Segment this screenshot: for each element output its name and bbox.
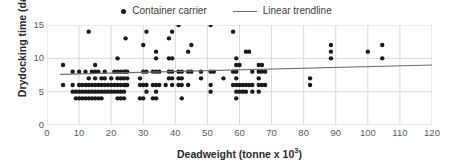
x-tick-label: 30 — [128, 128, 158, 138]
x-tick-label: 80 — [289, 128, 319, 138]
chart-legend: Container carrier Linear trendline — [0, 2, 453, 20]
plot-canvas — [47, 25, 432, 125]
x-tick-label: 110 — [385, 128, 415, 138]
x-axis-tick-labels: 0102030405060708090100110120 — [47, 128, 432, 142]
x-tick-label: 50 — [192, 128, 222, 138]
x-tick-label: 10 — [64, 128, 94, 138]
y-tick-label: 5 — [22, 87, 44, 97]
legend-item-container-carrier: Container carrier — [121, 6, 206, 16]
x-tick-label: 100 — [353, 128, 383, 138]
x-tick-label: 0 — [32, 128, 62, 138]
trendline — [60, 65, 432, 74]
legend-label-linear-trendline: Linear trendline — [263, 6, 332, 16]
gridlines — [47, 25, 432, 125]
plot-area — [47, 25, 432, 125]
x-axis-title-tail: ) — [298, 148, 302, 160]
x-tick-label: 40 — [160, 128, 190, 138]
x-tick-label: 20 — [96, 128, 126, 138]
x-tick-label: 90 — [321, 128, 351, 138]
legend-label-container-carrier: Container carrier — [132, 6, 206, 16]
x-axis-title-base: Deadweight (tonne x 10 — [177, 148, 294, 160]
legend-line-marker-icon — [233, 11, 257, 12]
scatter-chart: Container carrier Linear trendline Drydo… — [0, 0, 453, 168]
legend-dot-marker-icon — [121, 9, 126, 14]
y-tick-label: 15 — [22, 20, 44, 30]
y-tick-label: 10 — [22, 53, 44, 63]
x-tick-label: 120 — [417, 128, 447, 138]
y-axis-tick-labels: 051015 — [18, 25, 44, 125]
x-tick-label: 60 — [225, 128, 255, 138]
legend-item-linear-trendline: Linear trendline — [233, 6, 332, 16]
x-axis-title: Deadweight (tonne x 103) — [47, 146, 432, 160]
x-tick-label: 70 — [257, 128, 287, 138]
